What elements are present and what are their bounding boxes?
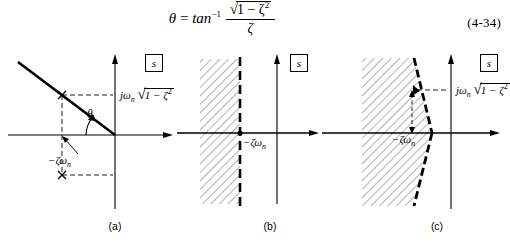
panel-b-boundary-point (237, 130, 242, 135)
panel-a-svg (0, 44, 175, 243)
panel-b-imaginary-axis (274, 54, 280, 204)
panel-c-real-label: −ζωn (392, 133, 415, 145)
panel-b-stability-region (200, 59, 240, 204)
radical-exponent: 2 (265, 0, 270, 10)
equation-function: tan−1 (192, 10, 221, 26)
panel-b-caption: (b) (250, 220, 290, 232)
panel-a-caption: (a) (95, 220, 135, 232)
panel-a-imaginary-axis (112, 54, 118, 209)
panel-a-real-coordinate-leader (62, 136, 78, 154)
panel-a-imaginary-label: jωn √1 − ζ2 (120, 86, 174, 103)
equation-lhs: θ (169, 10, 176, 26)
panel-b: s −ζωn (b) (175, 44, 320, 243)
equation-numerator: √1 − ζ2 (226, 1, 275, 20)
panel-b-real-label: −ζωn (243, 136, 266, 148)
panel-b-s-plane-box: s (290, 54, 308, 72)
panel-c-imaginary-axis (448, 54, 454, 209)
equation-row: θ = tan−1 √1 − ζ2 ζ (4-34) (0, 2, 509, 44)
panel-c: s jωn √1 − ζ2 −ζωn (c) (320, 44, 509, 243)
panel-c-imaginary-label: jωn √1 − ζ2 (456, 81, 510, 98)
panel-a-angle-label: θ (87, 108, 93, 120)
radical-body: 1 − ζ2 (236, 1, 271, 17)
equation-denominator: ζ (226, 20, 275, 36)
equation-body: θ = tan−1 √1 − ζ2 ζ (0, 2, 445, 37)
panel-a-damping-ray (18, 62, 115, 135)
equation-equals: = (180, 10, 188, 26)
panel-c-s-plane-box: s (480, 54, 498, 72)
panel-a-real-label: −ζωn (48, 154, 71, 166)
equation-number: (4-34) (467, 15, 501, 31)
panel-c-caption: (c) (417, 220, 457, 232)
panels-container: s jωn √1 − ζ2 −ζωn θ (a) (0, 44, 509, 243)
panel-a: s jωn √1 − ζ2 −ζωn θ (a) (0, 44, 175, 243)
panel-a-real-axis (8, 132, 173, 138)
equation-fraction: √1 − ζ2 ζ (226, 1, 275, 36)
equation-function-exponent: −1 (211, 9, 221, 19)
panel-c-stability-region (362, 58, 432, 206)
panel-a-s-plane-box: s (145, 54, 163, 72)
radical: √1 − ζ2 (230, 1, 271, 18)
